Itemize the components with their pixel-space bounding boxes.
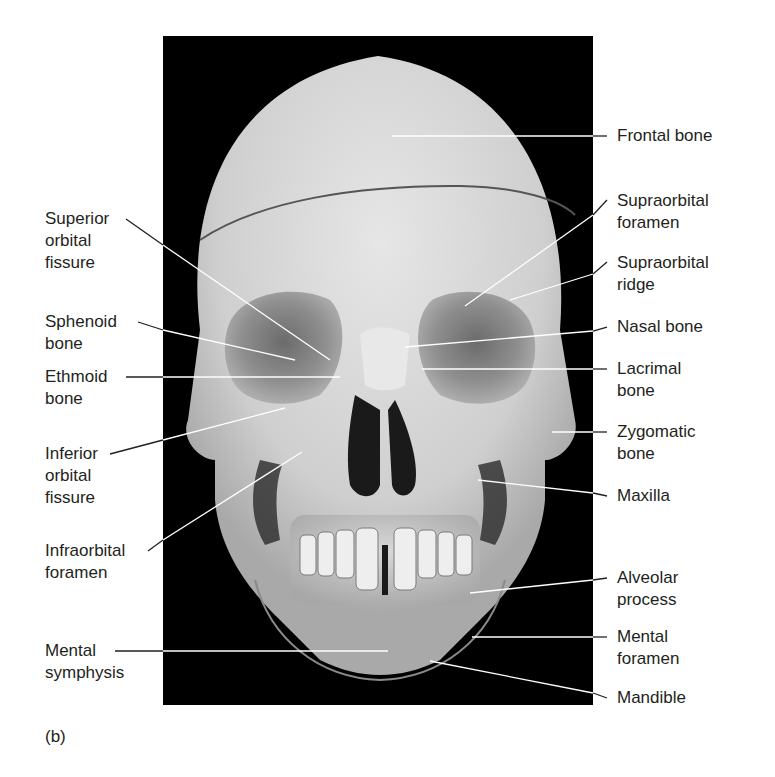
label-supraorbital-foramen: Supraorbital foramen	[617, 190, 709, 234]
panel-letter: (b)	[45, 726, 66, 748]
label-superior-orbital-fissure: Superior orbital fissure	[45, 208, 109, 274]
label-ethmoid-bone: Ethmoid bone	[45, 366, 107, 410]
label-lacrimal-bone: Lacrimal bone	[617, 358, 681, 402]
label-zygomatic-bone: Zygomatic bone	[617, 421, 695, 465]
label-sphenoid-bone: Sphenoid bone	[45, 311, 117, 355]
label-mental-foramen: Mental foramen	[617, 626, 679, 670]
right-orbit	[418, 292, 535, 404]
nasal-cavity-left	[348, 395, 380, 496]
label-frontal-bone: Frontal bone	[617, 125, 712, 147]
label-infraorbital-foramen: Infraorbital foramen	[45, 540, 125, 584]
label-supraorbital-ridge: Supraorbital ridge	[617, 252, 709, 296]
label-mandible: Mandible	[617, 687, 686, 709]
label-maxilla: Maxilla	[617, 485, 670, 507]
label-inferior-orbital-fissure: Inferior orbital fissure	[45, 443, 98, 509]
label-mental-symphysis: Mental symphysis	[45, 640, 124, 684]
label-nasal-bone: Nasal bone	[617, 316, 703, 338]
label-alveolar-process: Alveolar process	[617, 567, 678, 611]
skull-anterior-view-figure: Superior orbital fissure Sphenoid bone E…	[0, 0, 775, 777]
